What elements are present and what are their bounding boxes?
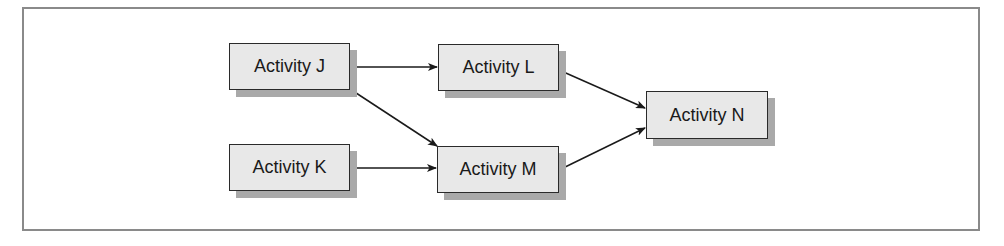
node-label: Activity J xyxy=(254,56,325,77)
node-activity-n: Activity N xyxy=(646,91,768,139)
node-label: Activity N xyxy=(669,105,744,126)
diagram-frame xyxy=(22,7,980,231)
node-label: Activity L xyxy=(462,57,534,78)
node-activity-l: Activity L xyxy=(438,44,559,91)
node-label: Activity K xyxy=(252,157,326,178)
node-label: Activity M xyxy=(459,159,536,180)
node-activity-m: Activity M xyxy=(437,146,559,193)
node-activity-j: Activity J xyxy=(229,43,350,90)
node-activity-k: Activity K xyxy=(229,144,350,191)
